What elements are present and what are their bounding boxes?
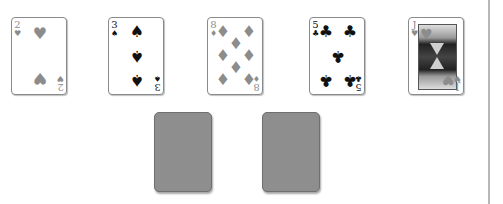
heart-icon: ♥ xyxy=(56,75,65,82)
card-rank: J xyxy=(453,82,462,92)
panel-divider xyxy=(488,0,490,204)
spade-icon: ♠ xyxy=(153,75,162,82)
card-rank: 3 xyxy=(153,82,162,92)
face-ornament xyxy=(430,43,444,55)
diamond-icon: ♦ xyxy=(252,75,261,82)
spade-icon: ♠ xyxy=(129,24,145,40)
heart-icon: ♥ xyxy=(13,30,22,37)
club-icon: ♣ xyxy=(354,75,363,82)
spade-icon: ♠ xyxy=(129,72,145,88)
card-8-of-diamonds[interactable]: 8 ♦ ♦ ♦ ♦ ♦ ♦ ♦ ♦ ♦ 8 ♦ xyxy=(207,17,263,95)
spade-icon: ♠ xyxy=(110,30,119,37)
diamond-icon: ♦ xyxy=(215,72,231,88)
heart-icon: ♥ xyxy=(420,27,433,41)
card-5-of-clubs[interactable]: 5 ♣ ♣ ♣ ♣ ♣ ♣ 5 ♣ xyxy=(309,17,365,95)
face-down-card[interactable] xyxy=(262,112,320,192)
heart-icon: ♥ xyxy=(32,26,48,42)
club-icon: ♣ xyxy=(318,72,334,88)
card-3-of-spades[interactable]: 3 ♠ ♠ ♠ ♠ 3 ♠ xyxy=(108,17,164,95)
card-corner-top: 3 ♠ xyxy=(110,20,119,37)
card-rank: 2 xyxy=(56,82,65,92)
spade-icon: ♠ xyxy=(129,48,145,64)
club-icon: ♣ xyxy=(330,48,346,64)
card-corner-bottom: 8 ♦ xyxy=(252,75,261,92)
card-rank: 5 xyxy=(354,82,363,92)
jack-face-artwork: ♥ ♥ xyxy=(418,24,457,90)
card-corner-bottom: 2 ♥ xyxy=(56,75,65,92)
club-icon: ♣ xyxy=(318,24,334,40)
card-corner-bottom: 3 ♠ xyxy=(153,75,162,92)
card-rank: 8 xyxy=(252,82,261,92)
face-ornament xyxy=(430,57,444,69)
heart-icon: ♥ xyxy=(453,75,462,82)
card-corner-bottom: J ♥ xyxy=(453,75,462,92)
card-corner-top: 2 ♥ xyxy=(13,20,22,37)
heart-icon: ♥ xyxy=(32,70,48,86)
card-jack-of-hearts[interactable]: J ♥ ♥ ♥ J ♥ xyxy=(408,17,464,95)
card-2-of-hearts[interactable]: 2 ♥ ♥ ♥ 2 ♥ xyxy=(11,17,67,95)
face-down-card[interactable] xyxy=(154,112,212,192)
club-icon: ♣ xyxy=(342,24,358,40)
card-corner-bottom: 5 ♣ xyxy=(354,75,363,92)
